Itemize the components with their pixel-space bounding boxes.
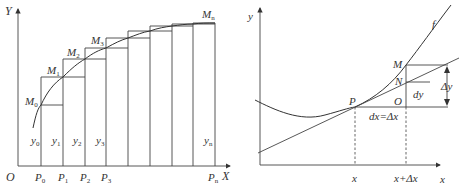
svg-text:y1: y1 (51, 134, 61, 148)
origin-label: O (6, 170, 15, 184)
left-y-axis-label: Y (5, 4, 13, 18)
right-figure: y x f M N O P dy dx=Δx Δy x x+Δx (247, 5, 459, 185)
height-labels: y0 y1 y2 y3 yn (30, 134, 213, 148)
left-x-axis-label: X (221, 169, 230, 183)
svg-text:M2: M2 (66, 46, 80, 60)
tick-x-plus-dx-label: x+Δx (393, 172, 418, 184)
svg-text:yn: yn (203, 134, 213, 148)
svg-text:M3: M3 (90, 34, 104, 48)
svg-text:P0: P0 (34, 171, 46, 185)
dy-label: dy (413, 88, 424, 100)
svg-text:y3: y3 (95, 134, 105, 148)
svg-text:M0: M0 (24, 95, 38, 109)
delta-y-arrowhead-down (444, 99, 450, 106)
svg-text:y2: y2 (72, 134, 82, 148)
point-P-label: P (348, 95, 356, 107)
right-x-axis-label: x (439, 173, 445, 185)
svg-text:P1: P1 (57, 171, 69, 185)
point-N-label: N (394, 75, 403, 87)
svg-text:M1: M1 (46, 64, 60, 78)
riemann-bars (41, 23, 215, 166)
delta-y-arrowhead-up (444, 66, 450, 73)
delta-y-label: Δy (440, 80, 452, 92)
svg-text:Mn: Mn (201, 8, 215, 22)
svg-text:Pn: Pn (207, 171, 219, 185)
left-figure: Y X O M0 M1 M2 M3 Mn y0 y1 y2 y3 yn P0 P… (5, 4, 230, 185)
p-point-labels: P0 P1 P2 P3 Pn (34, 171, 219, 185)
point-O-label: O (394, 95, 402, 107)
svg-text:y0: y0 (30, 134, 40, 148)
dx-label: dx=Δx (369, 110, 398, 122)
tangent-line (258, 58, 459, 153)
diagram-canvas: Y X O M0 M1 M2 M3 Mn y0 y1 y2 y3 yn P0 P… (0, 0, 462, 189)
svg-text:P2: P2 (79, 171, 91, 185)
tick-x-label: x (351, 172, 357, 184)
increasing-curve (33, 23, 215, 128)
right-y-axis-label: y (247, 10, 253, 22)
m-point-labels: M0 M1 M2 M3 Mn (24, 8, 215, 109)
svg-text:P3: P3 (100, 171, 112, 185)
point-M-label: M (392, 58, 403, 70)
